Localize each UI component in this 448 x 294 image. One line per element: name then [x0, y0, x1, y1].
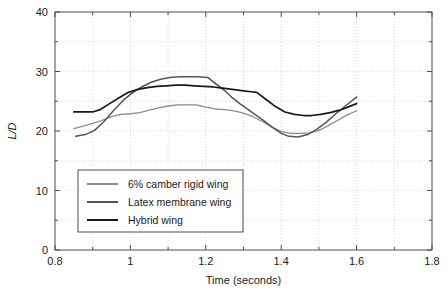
x-tick-label: 1.4: [274, 255, 289, 267]
y-tick-label: 20: [36, 125, 48, 137]
legend-label-0: 6% camber rigid wing: [128, 178, 229, 190]
y-axis-title: L/D: [6, 122, 18, 139]
figure-container: 0.811.21.41.61.8010203040 Time (seconds)…: [0, 0, 448, 294]
x-tick-label: 1.6: [349, 255, 364, 267]
x-tick-label: 0.8: [47, 255, 62, 267]
y-tick-label: 10: [36, 185, 48, 197]
y-tick-label: 30: [36, 66, 48, 78]
legend-label-1: Latex membrane wing: [128, 196, 231, 208]
series-layer: [74, 77, 357, 137]
x-axis-title: Time (seconds): [206, 274, 281, 286]
series-line-1: [76, 77, 357, 137]
x-tick-label: 1.2: [198, 255, 213, 267]
series-line-0: [74, 105, 357, 134]
y-tick-label: 40: [36, 6, 48, 18]
series-line-2: [74, 85, 357, 115]
legend-label-2: Hybrid wing: [128, 214, 183, 226]
legend-layer: 6% camber rigid wingLatex membrane wingH…: [78, 170, 243, 232]
line-chart: 0.811.21.41.61.8010203040 Time (seconds)…: [0, 0, 448, 294]
x-tick-label: 1: [127, 255, 133, 267]
y-tick-label: 0: [42, 244, 48, 256]
x-tick-label: 1.8: [424, 255, 439, 267]
